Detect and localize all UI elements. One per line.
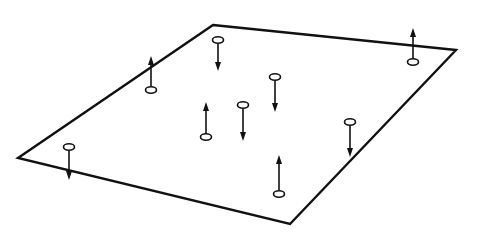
ring-icon: [270, 74, 281, 80]
arrow-up-icon: [148, 56, 154, 65]
arrow-markers-group: [64, 28, 419, 197]
arrow-down-icon: [347, 148, 353, 157]
arrow-marker-down: [270, 74, 281, 112]
arrow-marker-down: [64, 144, 75, 180]
ring-icon: [274, 191, 285, 197]
arrow-down-icon: [240, 132, 246, 141]
ring-icon: [238, 102, 249, 108]
arrow-marker-down: [238, 102, 249, 141]
arrow-up-icon: [410, 28, 416, 37]
ring-icon: [213, 37, 224, 43]
ring-icon: [201, 134, 212, 140]
ring-icon: [64, 144, 75, 150]
arrow-marker-up: [146, 56, 157, 93]
ring-icon: [345, 119, 356, 125]
arrow-marker-down: [345, 119, 356, 157]
arrow-marker-down: [213, 37, 224, 71]
arrow-marker-up: [201, 102, 212, 140]
arrow-down-icon: [66, 171, 72, 180]
diagram-canvas: [0, 0, 480, 236]
arrow-down-icon: [215, 62, 221, 71]
tilted-plate-outline: [18, 25, 456, 224]
arrow-up-icon: [276, 155, 282, 164]
arrow-down-icon: [272, 103, 278, 112]
ring-icon: [408, 59, 419, 65]
arrow-up-icon: [203, 102, 209, 111]
plate-with-arrows-figure: [0, 0, 480, 236]
arrow-marker-up: [274, 155, 285, 197]
ring-icon: [146, 87, 157, 93]
